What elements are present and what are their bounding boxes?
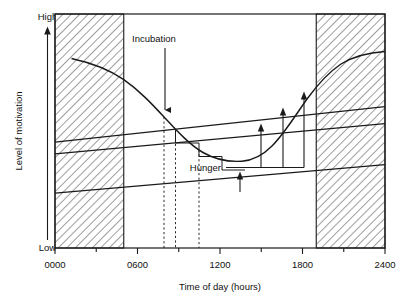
x-axis-ticks bbox=[55, 248, 385, 254]
x-tick-label-1800: 1800 bbox=[292, 259, 313, 270]
chart-svg: High Low Level of motivation bbox=[0, 0, 404, 307]
x-axis-tick-labels: 0000 0600 1200 1800 2400 bbox=[44, 259, 395, 270]
x-tick-label-1200: 1200 bbox=[209, 259, 230, 270]
y-axis-title: Level of motivation bbox=[13, 91, 24, 170]
y-axis-arrow-icon bbox=[44, 27, 51, 35]
y-axis-high-label: High bbox=[38, 11, 58, 22]
y-axis-low-label: Low bbox=[39, 242, 57, 253]
chart-figure: High Low Level of motivation bbox=[0, 0, 404, 307]
x-tick-label-600: 0600 bbox=[127, 259, 148, 270]
x-axis-title: Time of day (hours) bbox=[179, 281, 261, 292]
incubation-label: Incubation bbox=[132, 33, 176, 44]
shaded-region-night-late bbox=[316, 14, 385, 248]
y-axis: High Low Level of motivation bbox=[13, 11, 57, 253]
x-tick-label-0: 0000 bbox=[44, 259, 65, 270]
shaded-region-night-early bbox=[55, 14, 124, 248]
hunger-label: Hunger bbox=[190, 162, 221, 173]
plot-area bbox=[55, 14, 385, 248]
x-tick-label-2400: 2400 bbox=[374, 259, 395, 270]
